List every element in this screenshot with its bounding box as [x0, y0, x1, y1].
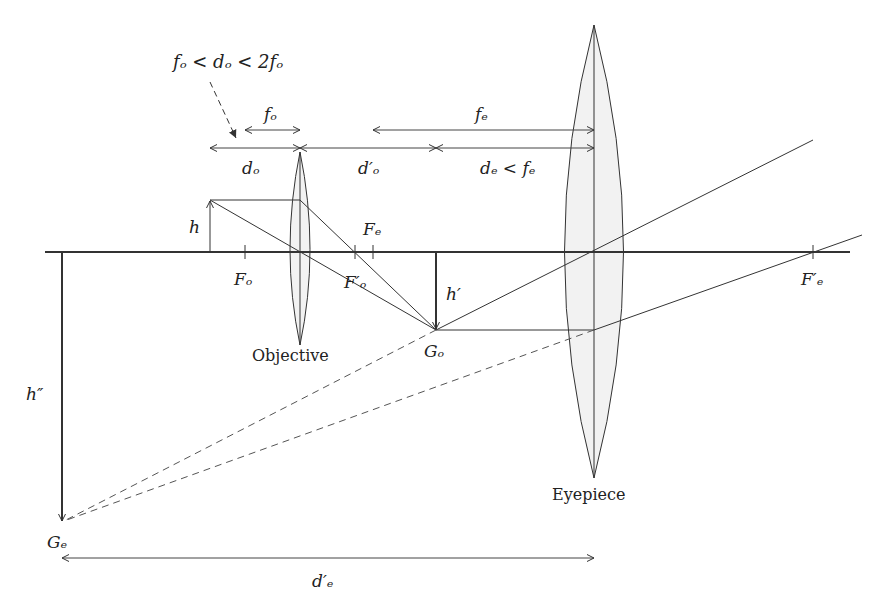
F-e-label: Fₑ	[362, 219, 381, 239]
condition-pointer-arrow	[210, 82, 236, 138]
d-e-condition-label: dₑ < fₑ	[480, 158, 535, 178]
d-o-prime-label: d′ₒ	[358, 158, 380, 178]
G-e-label: Gₑ	[47, 532, 67, 552]
f-e-label: fₑ	[473, 104, 488, 124]
F-o-label: Fₒ	[233, 269, 253, 289]
F-e-prime-label: F′ₑ	[800, 269, 823, 289]
d-o-label: dₒ	[242, 158, 260, 178]
dimension-lines	[62, 130, 594, 558]
F-o-prime-label: F′ₒ	[343, 272, 367, 292]
objective-rays	[210, 200, 436, 330]
microscope-diagram: fₒ < dₒ < 2fₒ fₒ fₑ dₒ d′ₒ dₑ < fₑ h h′ …	[0, 0, 881, 614]
G-o-label: Gₒ	[424, 341, 445, 361]
d-e-prime-label: d′ₑ	[312, 571, 333, 591]
condition-label: fₒ < dₒ < 2fₒ	[171, 51, 283, 72]
objective-lens	[290, 152, 310, 345]
virtual-rays	[64, 330, 594, 521]
h-prime-label: h′	[446, 284, 461, 304]
objective-label: Objective	[252, 346, 329, 365]
h-label: h	[189, 217, 200, 237]
h-double-prime-label: h″	[26, 384, 44, 404]
eyepiece-label: Eyepiece	[552, 485, 625, 504]
f-o-label: fₒ	[262, 104, 277, 124]
